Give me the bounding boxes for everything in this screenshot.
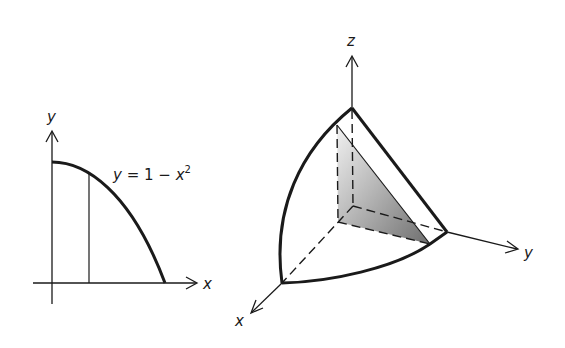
y-axis-3d <box>447 232 518 253</box>
y-axis-label-2d: y <box>46 108 57 126</box>
solid-3d: z y x <box>234 32 534 330</box>
curve-equation-label: y = 1 − x2 <box>112 164 191 184</box>
equation-middle: = 1 − <box>122 166 176 184</box>
equation-var: x <box>175 166 185 184</box>
x-axis-label-3d: x <box>234 312 244 330</box>
y-axis-label-3d: y <box>523 244 534 262</box>
graph-2d: y x y = 1 − x2 <box>33 108 212 304</box>
x-axis-3d <box>251 283 282 313</box>
z-axis-label-3d: z <box>346 32 356 50</box>
diagram-figure: y x y = 1 − x2 <box>0 0 565 348</box>
z-axis-3d <box>346 56 358 108</box>
y-axis-2d <box>46 131 58 304</box>
equation-exponent: 2 <box>185 164 191 175</box>
x-axis-hidden <box>282 206 353 283</box>
x-axis-2d <box>33 277 197 289</box>
x-axis-label-2d: x <box>202 275 212 293</box>
